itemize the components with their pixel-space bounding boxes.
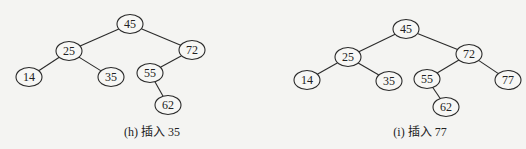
tree-node-25: 25: [56, 42, 82, 61]
tree-node-77: 77: [495, 71, 521, 90]
bst-diagram-canvas: 452572143555624525721435557762: [0, 0, 526, 149]
tree-i: 4525721435557762: [294, 20, 521, 117]
node-label: 55: [421, 72, 433, 86]
caption-i: (i) 插入 77: [393, 122, 446, 140]
node-label: 45: [400, 22, 412, 36]
edge-45-25: [80, 29, 119, 46]
edge-25-35: [79, 57, 101, 71]
node-label: 25: [342, 50, 354, 64]
edge-45-25: [359, 34, 395, 52]
tree-node-25: 25: [335, 48, 361, 67]
tree-node-62: 62: [155, 96, 181, 115]
tree-node-14: 14: [16, 68, 42, 87]
edge-72-55: [437, 60, 459, 73]
node-label: 45: [124, 17, 136, 31]
caption-h: (h) 插入 35: [124, 122, 180, 140]
edge-25-14: [39, 57, 60, 70]
tree-h: 45257214355562: [16, 15, 205, 115]
node-label: 14: [23, 70, 35, 84]
tree-node-14: 14: [294, 71, 320, 90]
node-label: 25: [63, 44, 75, 58]
node-label: 14: [301, 73, 313, 87]
node-label: 77: [502, 73, 514, 87]
tree-node-55: 55: [137, 64, 163, 83]
tree-node-35: 35: [376, 72, 402, 91]
tree-node-72: 72: [456, 45, 482, 64]
tree-node-45: 45: [393, 20, 419, 39]
edge-25-14: [317, 63, 337, 74]
edge-25-35: [358, 63, 379, 75]
tree-node-45: 45: [117, 15, 143, 34]
node-label: 35: [105, 70, 117, 84]
node-label: 72: [186, 43, 198, 57]
edge-55-62: [433, 88, 440, 99]
node-label: 62: [162, 98, 174, 112]
edge-45-72: [141, 29, 180, 46]
edge-72-55: [160, 56, 181, 68]
edge-45-72: [417, 34, 457, 50]
tree-node-62: 62: [433, 98, 459, 117]
node-label: 72: [463, 47, 475, 61]
edge-55-62: [155, 82, 163, 96]
tree-node-55: 55: [414, 70, 440, 89]
node-label: 35: [383, 74, 395, 88]
node-label: 62: [440, 100, 452, 114]
tree-node-72: 72: [179, 41, 205, 60]
edge-72-77: [479, 60, 499, 73]
node-label: 55: [144, 66, 156, 80]
tree-node-35: 35: [98, 68, 124, 87]
